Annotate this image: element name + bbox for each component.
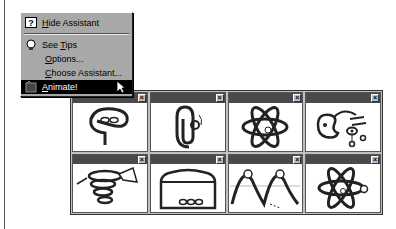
menu-item-see-tips[interactable]: See Tips — [21, 38, 132, 52]
menu-item-label: Hide Assistant — [42, 18, 99, 28]
close-icon[interactable]: × — [216, 156, 224, 164]
assistant-context-menu: ? Hide Assistant See Tips Options... Cho… — [20, 12, 133, 97]
assistant-gallery: × × × × × × × — [70, 90, 383, 215]
assistant-window-4[interactable]: × — [305, 92, 381, 152]
paperclip-assistant-icon — [73, 103, 147, 151]
assistant-window-1[interactable]: × — [72, 92, 148, 152]
close-icon[interactable]: × — [293, 156, 301, 164]
clippit-assistant-icon — [151, 103, 225, 151]
svg-text:?: ? — [28, 18, 34, 28]
wave-assistant-icon — [229, 164, 303, 212]
menu-separator — [24, 33, 129, 35]
atom-assistant-icon — [306, 164, 380, 212]
menu-item-choose-assistant[interactable]: Choose Assistant... — [21, 66, 132, 80]
spring-assistant-icon — [73, 164, 147, 212]
assistant-title-bar[interactable]: × — [306, 93, 380, 103]
menu-item-label: Animate! — [42, 82, 78, 92]
assistant-window-5[interactable]: × — [72, 154, 148, 214]
close-icon[interactable]: × — [371, 94, 379, 102]
assistant-window-2[interactable]: × — [150, 92, 226, 152]
close-icon[interactable]: × — [293, 94, 301, 102]
assistant-title-bar[interactable]: × — [306, 155, 380, 165]
menu-item-label: Options... — [45, 54, 84, 64]
help-question-icon: ? — [24, 17, 38, 29]
menu-item-options[interactable]: Options... — [21, 52, 132, 66]
assistant-window-7[interactable]: × — [228, 154, 304, 214]
assistant-window-3[interactable]: × — [228, 92, 304, 152]
close-icon[interactable]: × — [216, 94, 224, 102]
close-icon[interactable]: × — [138, 156, 146, 164]
animate-icon — [24, 81, 38, 93]
assistant-title-bar[interactable]: × — [229, 93, 303, 103]
menu-item-label: See Tips — [42, 40, 77, 50]
mouse-pointer-icon — [116, 80, 126, 96]
box-assistant-icon — [151, 164, 225, 212]
assistant-window-8[interactable]: × — [305, 154, 381, 214]
palette-assistant-icon — [306, 103, 380, 151]
assistant-title-bar[interactable]: × — [151, 155, 225, 165]
window-left-border — [4, 0, 5, 229]
menu-item-label: Choose Assistant... — [45, 68, 122, 78]
lightbulb-icon — [24, 39, 38, 51]
assistant-title-bar[interactable]: × — [73, 155, 147, 165]
assistant-title-bar[interactable]: × — [151, 93, 225, 103]
close-icon[interactable]: × — [371, 156, 379, 164]
atom-assistant-icon — [229, 103, 303, 151]
assistant-window-6[interactable]: × — [150, 154, 226, 214]
menu-item-hide-assistant[interactable]: ? Hide Assistant — [21, 16, 132, 30]
assistant-title-bar[interactable]: × — [229, 155, 303, 165]
menu-item-animate[interactable]: Animate! — [21, 80, 132, 94]
close-icon[interactable]: × — [138, 94, 146, 102]
